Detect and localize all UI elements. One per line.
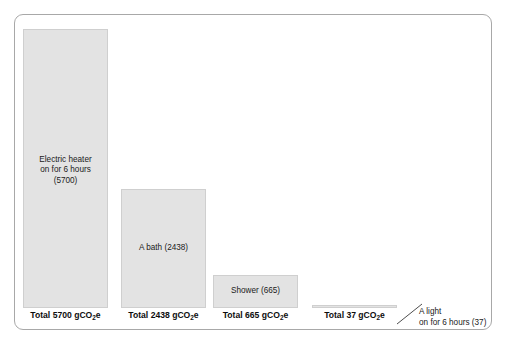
chart-frame: Electric heater on for 6 hours (5700) A …: [14, 14, 492, 330]
axis-label-1-suffix: e: [96, 310, 101, 320]
axis-label-4: Total 37 gCO2e: [312, 310, 397, 320]
axis-label-1: Total 5700 gCO2e: [23, 310, 108, 320]
annotation-a-light: A light on for 6 hours (37): [419, 307, 486, 328]
axis-label-1-sub: 2: [92, 314, 96, 321]
axis-label-4-text: Total 37 gCO: [324, 310, 376, 320]
axis-label-4-sub: 2: [377, 314, 381, 321]
bar-label-1: Electric heater on for 6 hours (5700): [23, 155, 108, 187]
axis-label-2-sub: 2: [190, 314, 194, 321]
bar-column-2: A bath (2438): [121, 189, 206, 308]
axis-label-2: Total 2438 gCO2e: [121, 310, 206, 320]
plot-area: Electric heater on for 6 hours (5700) A …: [15, 15, 493, 331]
bar-a-light[interactable]: [312, 305, 397, 308]
axis-label-4-suffix: e: [380, 310, 385, 320]
bar-label-2: A bath (2438): [121, 243, 206, 254]
bar-label-3: Shower (665): [213, 286, 298, 297]
bar-column-4: [312, 305, 397, 308]
axis-label-3-suffix: e: [283, 310, 288, 320]
axis-label-1-text: Total 5700 gCO: [30, 310, 92, 320]
axis-label-3: Total 665 gCO2e: [213, 310, 298, 320]
axis-label-2-suffix: e: [194, 310, 199, 320]
axis-label-3-text: Total 665 gCO: [223, 310, 280, 320]
axis-label-3-sub: 2: [280, 314, 284, 321]
bar-column-1: Electric heater on for 6 hours (5700): [23, 29, 108, 308]
bar-column-3: Shower (665): [213, 275, 298, 308]
axis-label-2-text: Total 2438 gCO: [128, 310, 190, 320]
